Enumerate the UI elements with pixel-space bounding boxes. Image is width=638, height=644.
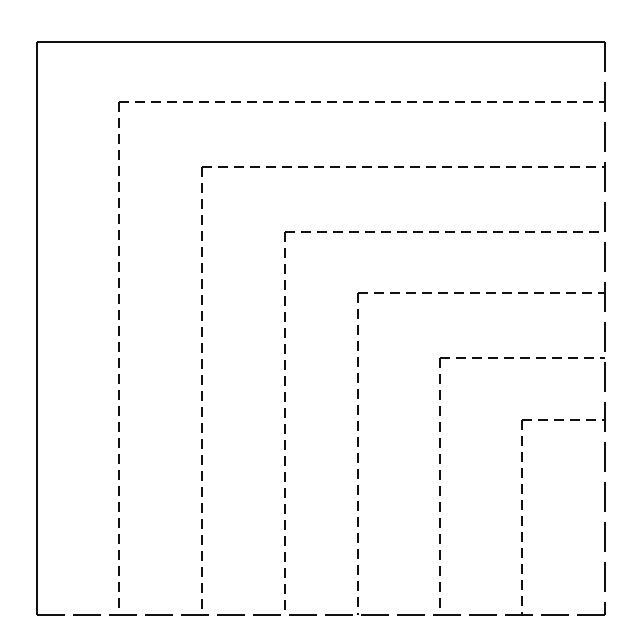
nested-squares-diagram bbox=[0, 0, 638, 644]
outer-box bbox=[37, 42, 605, 615]
nested-l-shapes bbox=[119, 102, 605, 615]
